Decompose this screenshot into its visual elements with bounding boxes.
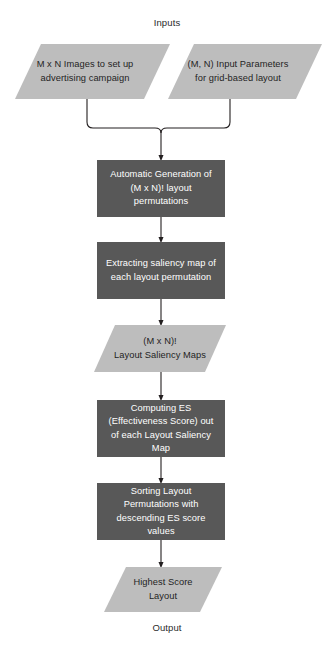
merge-connector [87, 99, 230, 133]
shape-generate-permutations [97, 160, 225, 217]
shape-compute-es [97, 400, 225, 457]
shape-sort-layouts [97, 483, 225, 540]
output-label: Output [112, 622, 222, 634]
inputs-label: Inputs [112, 17, 222, 29]
flowchart-shapes [0, 0, 334, 651]
shape-input-images [15, 44, 170, 99]
shape-input-parameters [168, 44, 322, 99]
flowchart-canvas: Inputs M x N Images to set up advertisin… [0, 0, 334, 651]
shape-highest-score-layout [104, 567, 222, 612]
shape-extract-saliency [97, 242, 225, 299]
shape-saliency-maps [94, 325, 226, 372]
